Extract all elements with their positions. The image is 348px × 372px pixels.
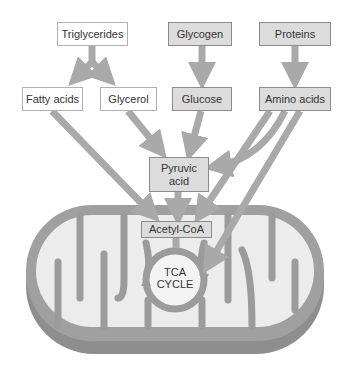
acetyl-coa-label: Acetyl-CoA xyxy=(149,223,204,236)
tca-cycle-label: TCA CYCLE xyxy=(147,266,203,290)
glucose-box: Glucose xyxy=(172,87,232,111)
glycerol-box: Glycerol xyxy=(100,87,157,111)
pyruvic-acid-line2: acid xyxy=(169,175,189,188)
fatty-acids-box: Fatty acids xyxy=(22,87,83,111)
amino-acids-box: Amino acids xyxy=(259,87,331,111)
proteins-box: Proteins xyxy=(259,22,331,46)
glucose-label: Glucose xyxy=(182,93,222,106)
fatty-acids-label: Fatty acids xyxy=(26,93,79,106)
pyruvic-acid-line1: Pyruvic xyxy=(161,162,197,175)
glycogen-box: Glycogen xyxy=(168,22,232,46)
proteins-label: Proteins xyxy=(275,28,315,41)
acetyl-coa-box: Acetyl-CoA xyxy=(141,221,212,238)
glycogen-label: Glycogen xyxy=(177,28,223,41)
tca-line2: CYCLE xyxy=(147,278,203,290)
triglycerides-label: Triglycerides xyxy=(62,28,124,41)
pyruvic-acid-box: Pyruvic acid xyxy=(149,157,209,192)
glycerol-label: Glycerol xyxy=(108,93,148,106)
triglycerides-box: Triglycerides xyxy=(57,22,128,46)
tca-line1: TCA xyxy=(147,266,203,278)
amino-acids-label: Amino acids xyxy=(265,93,325,106)
